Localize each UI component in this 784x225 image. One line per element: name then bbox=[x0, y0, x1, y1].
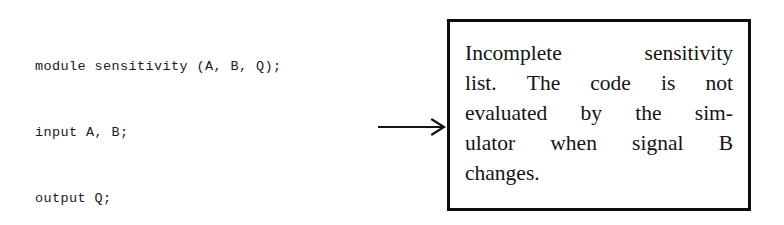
callout-word: sim- bbox=[695, 98, 733, 128]
callout-word: code bbox=[590, 68, 631, 98]
code-line: module sensitivity (A, B, Q); bbox=[35, 56, 282, 78]
callout-word: ulator bbox=[465, 128, 515, 158]
callout-line: evaluatedbythesim- bbox=[465, 98, 733, 128]
callout-word: evaluated bbox=[465, 98, 547, 128]
callout-word: the bbox=[635, 98, 661, 128]
callout-word: list. bbox=[465, 68, 497, 98]
callout-word: is bbox=[661, 68, 675, 98]
callout-box: Incompletesensitivity list.Thecodeisnot … bbox=[447, 19, 751, 211]
code-line: output Q; bbox=[35, 188, 282, 210]
callout-word: when bbox=[550, 128, 597, 158]
code-line: input A, B; bbox=[35, 122, 282, 144]
callout-word: by bbox=[581, 98, 603, 128]
figure-canvas: module sensitivity (A, B, Q); input A, B… bbox=[0, 0, 784, 225]
callout-word: The bbox=[527, 68, 560, 98]
callout-word: signal bbox=[632, 128, 683, 158]
callout-line: ulatorwhensignalB bbox=[465, 128, 733, 158]
callout-text: Incompletesensitivity list.Thecodeisnot … bbox=[465, 38, 733, 188]
callout-word: B bbox=[719, 128, 733, 158]
callout-line: changes. bbox=[465, 158, 733, 188]
callout-word: sensitivity bbox=[645, 38, 733, 68]
callout-line: list.Thecodeisnot bbox=[465, 68, 733, 98]
callout-word: Incomplete bbox=[465, 38, 562, 68]
arrow-right-icon bbox=[376, 112, 450, 142]
callout-word: not bbox=[705, 68, 732, 98]
callout-line: Incompletesensitivity bbox=[465, 38, 733, 68]
verilog-code-listing: module sensitivity (A, B, Q); input A, B… bbox=[35, 12, 282, 225]
